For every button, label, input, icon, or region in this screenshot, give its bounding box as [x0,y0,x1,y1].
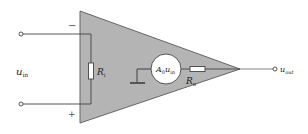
op-amp-diagram: − + uin Ri A0uin Ro uout [0,0,308,134]
input-resistor-ri [89,63,94,79]
minus-sign: − [68,20,76,31]
output-voltage-label: uout [280,65,294,75]
output-resistor-ro [190,67,205,72]
output-terminal[interactable] [273,67,277,71]
input-voltage-label: uin [16,66,28,78]
input-terminal-minus[interactable] [19,32,23,36]
plus-sign: + [68,109,76,119]
input-terminal-plus[interactable] [19,102,23,106]
